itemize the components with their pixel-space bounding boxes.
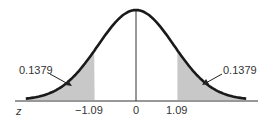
annotation-left: 0.1379 — [19, 65, 53, 76]
tick-right: 1.09 — [166, 105, 187, 116]
annotation-right: 0.1379 — [223, 65, 257, 76]
axis-label-z: z — [16, 106, 22, 117]
tick-left: −1.09 — [75, 105, 103, 116]
tick-center: 0 — [133, 105, 139, 116]
